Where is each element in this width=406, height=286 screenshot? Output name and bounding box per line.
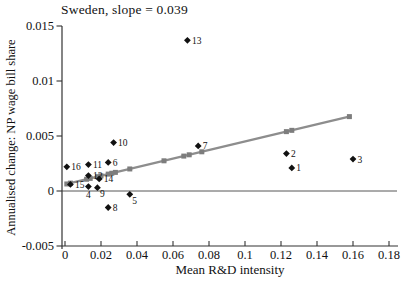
x-tick-label: 0.08 [198, 248, 220, 262]
data-point-label-3: 3 [358, 155, 363, 165]
data-point-label-15: 15 [75, 180, 85, 190]
y-tick-label: 0.015 [26, 19, 54, 33]
data-point-10 [110, 139, 117, 146]
x-tick-label: 0.18 [378, 248, 400, 262]
y-tick-label: 0.01 [32, 74, 54, 88]
fit-marker [162, 158, 167, 163]
data-point-label-16: 16 [71, 162, 81, 172]
data-point-label-9: 9 [100, 189, 105, 199]
data-point-3 [350, 156, 357, 163]
data-point-label-13: 13 [192, 36, 202, 46]
x-tick-label: 0 [62, 248, 68, 262]
data-point-1 [288, 165, 295, 172]
fit-marker [347, 114, 352, 119]
x-tick-label: 0.04 [126, 248, 149, 262]
data-point-16 [63, 163, 70, 170]
scatter-plot: -0.00500.0050.010.01500.020.040.060.080.… [0, 0, 406, 286]
fit-marker [127, 166, 132, 171]
data-point-label-1: 1 [296, 163, 301, 173]
data-point-label-4: 4 [86, 190, 91, 200]
fit-marker [289, 128, 294, 133]
y-tick-label: 0.005 [26, 129, 54, 143]
data-point-label-7: 7 [203, 141, 208, 151]
fit-marker [284, 129, 289, 134]
data-point-label-11: 11 [93, 160, 102, 170]
x-tick-label: 0.02 [90, 248, 112, 262]
data-point-label-8: 8 [113, 203, 118, 213]
data-point-label-5: 5 [132, 196, 137, 206]
data-point-7 [195, 143, 202, 150]
x-tick-label: 0.12 [270, 248, 292, 262]
data-point-2 [283, 150, 290, 157]
x-tick-label: 0.14 [306, 248, 329, 262]
fit-marker [187, 152, 192, 157]
data-point-label-6: 6 [113, 158, 118, 168]
x-tick-label: 0.06 [162, 248, 184, 262]
y-tick-label: 0 [48, 184, 54, 198]
data-point-label-14: 14 [104, 174, 114, 184]
data-point-label-10: 10 [118, 138, 128, 148]
data-point-6 [105, 159, 112, 166]
x-tick-label: 0.16 [342, 248, 364, 262]
fit-marker [181, 154, 186, 159]
data-point-13 [184, 37, 191, 44]
data-point-label-2: 2 [291, 149, 296, 159]
data-point-8 [105, 204, 112, 211]
y-tick-label: -0.005 [22, 239, 54, 253]
fit-marker [113, 170, 118, 175]
data-point-11 [85, 161, 92, 168]
x-tick-label: 0.1 [237, 248, 253, 262]
